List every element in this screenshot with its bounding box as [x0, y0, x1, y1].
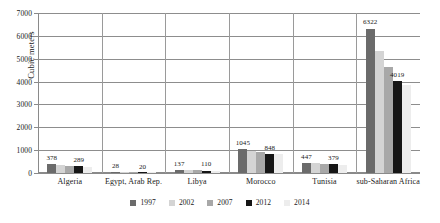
bar-value-label: 379	[328, 154, 339, 162]
bar[interactable]	[366, 29, 375, 174]
x-category-label: Tunisia	[293, 177, 357, 186]
group-separator	[102, 13, 103, 173]
bar[interactable]	[302, 163, 311, 173]
y-tick-label: 7000	[17, 9, 32, 18]
bar[interactable]	[402, 85, 411, 173]
y-tick-mark	[34, 173, 38, 174]
x-category-label: Algeria	[38, 177, 102, 186]
bar-value-label: 137	[174, 160, 185, 168]
bar-group: sub-Saharan Africa	[356, 13, 420, 173]
bar[interactable]	[311, 163, 320, 173]
bar[interactable]	[193, 170, 202, 173]
bar-value-label: 4019	[390, 71, 404, 79]
bar[interactable]	[320, 164, 329, 173]
bar-value-label: 378	[46, 154, 57, 162]
y-tick-label: 5000	[17, 54, 32, 63]
legend-swatch-icon	[207, 200, 213, 206]
y-tick-label: 2000	[17, 123, 32, 132]
bar-group-bars	[38, 13, 102, 173]
bar-group-bars	[102, 13, 166, 173]
bar-value-label: 6322	[363, 18, 377, 26]
plot-area: 01000200030004000500060007000AlgeriaEgyp…	[38, 13, 420, 173]
bar[interactable]	[238, 149, 247, 173]
legend-label: 2002	[179, 198, 194, 207]
x-category-label: Libya	[165, 177, 229, 186]
bar-value-label: 20	[139, 163, 146, 171]
bar-value-label: 848	[264, 144, 275, 152]
bar[interactable]	[375, 51, 384, 173]
legend-item[interactable]: 2012	[246, 198, 271, 207]
legend-item[interactable]: 2014	[284, 198, 309, 207]
bar[interactable]	[47, 164, 56, 173]
bar[interactable]	[247, 151, 256, 173]
bar[interactable]	[129, 172, 138, 173]
legend-swatch-icon	[169, 200, 175, 206]
bar[interactable]	[56, 165, 65, 173]
bar-group: Tunisia	[293, 13, 357, 173]
legend-label: 2007	[217, 198, 232, 207]
bar[interactable]	[274, 154, 283, 173]
legend-swatch-icon	[246, 200, 252, 206]
legend-swatch-icon	[284, 200, 290, 206]
bar[interactable]	[202, 171, 211, 174]
bar[interactable]	[329, 164, 338, 173]
y-tick-label: 0	[28, 169, 32, 178]
x-category-label: Egypt, Arab Rep.	[102, 177, 166, 186]
bar-group: Libya	[165, 13, 229, 173]
bar[interactable]	[83, 167, 92, 173]
legend-item[interactable]: 1997	[130, 198, 155, 207]
bar[interactable]	[384, 67, 393, 174]
x-category-label: sub-Saharan Africa	[356, 177, 420, 186]
y-tick-label: 6000	[17, 31, 32, 40]
bar-group: Morocco	[229, 13, 293, 173]
bar[interactable]	[256, 152, 265, 173]
group-separator	[165, 13, 166, 173]
bar[interactable]	[138, 172, 147, 173]
bar-value-label: 110	[201, 160, 212, 168]
group-separator	[229, 13, 230, 173]
bar[interactable]	[184, 170, 193, 173]
bar-value-label: 289	[73, 156, 84, 164]
bar[interactable]	[393, 81, 402, 173]
bar[interactable]	[265, 154, 274, 173]
y-tick-label: 4000	[17, 77, 32, 86]
legend-label: 1997	[140, 198, 155, 207]
bar[interactable]	[111, 172, 120, 173]
bar[interactable]	[65, 166, 74, 173]
bar[interactable]	[74, 166, 83, 173]
chart-legend: 19972002200720122014	[0, 198, 440, 207]
bar-value-label: 28	[112, 162, 119, 170]
legend-item[interactable]: 2002	[169, 198, 194, 207]
group-separator	[293, 13, 294, 173]
bar-value-label: 447	[301, 153, 312, 161]
y-tick-label: 1000	[17, 146, 32, 155]
gridline: 0	[38, 173, 420, 174]
bar[interactable]	[147, 172, 156, 173]
group-separator	[356, 13, 357, 173]
chart-container: Cubic meters 010002000300040005000600070…	[0, 0, 440, 223]
bar-group-bars	[165, 13, 229, 173]
legend-label: 2012	[256, 198, 271, 207]
bar-group: Egypt, Arab Rep.	[102, 13, 166, 173]
bar[interactable]	[120, 172, 129, 173]
bar-group: Algeria	[38, 13, 102, 173]
x-category-label: Morocco	[229, 177, 293, 186]
legend-label: 2014	[294, 198, 309, 207]
bar[interactable]	[338, 165, 347, 173]
legend-swatch-icon	[130, 200, 136, 206]
bar-group-bars	[356, 13, 420, 173]
bar-value-label: 1045	[236, 139, 250, 147]
y-tick-label: 3000	[17, 100, 32, 109]
bar-group-bars	[293, 13, 357, 173]
bar[interactable]	[211, 171, 220, 173]
bar-group-bars	[229, 13, 293, 173]
legend-item[interactable]: 2007	[207, 198, 232, 207]
bar[interactable]	[175, 170, 184, 173]
